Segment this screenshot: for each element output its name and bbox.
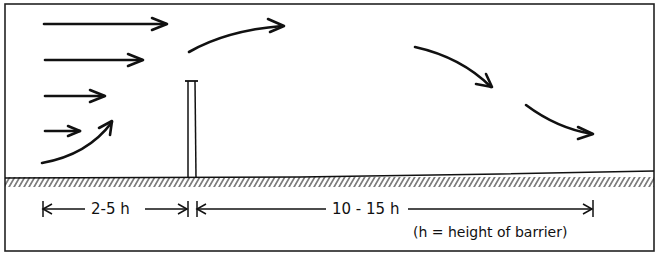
upwind-zone-label: 2-5 h xyxy=(88,201,133,217)
windbreak-diagram: 2-5 h 10 - 15 h (h = height of barrier) xyxy=(0,0,660,255)
descending-wind-arrow-icon xyxy=(415,47,492,87)
barrier xyxy=(185,81,198,178)
wind-arrow-icon xyxy=(45,126,80,136)
wind-arrow-icon xyxy=(45,54,143,66)
overflow-wind-arrow-icon xyxy=(189,19,284,52)
wind-arrow-icon xyxy=(45,90,105,102)
rising-wind-arrow-icon xyxy=(42,121,112,163)
wind-arrow-icon xyxy=(44,18,167,30)
descending-wind-arrow-icon xyxy=(526,105,593,139)
ground xyxy=(5,171,654,187)
downwind-zone-label: 10 - 15 h xyxy=(329,201,402,217)
legend-note: (h = height of barrier) xyxy=(410,224,570,240)
